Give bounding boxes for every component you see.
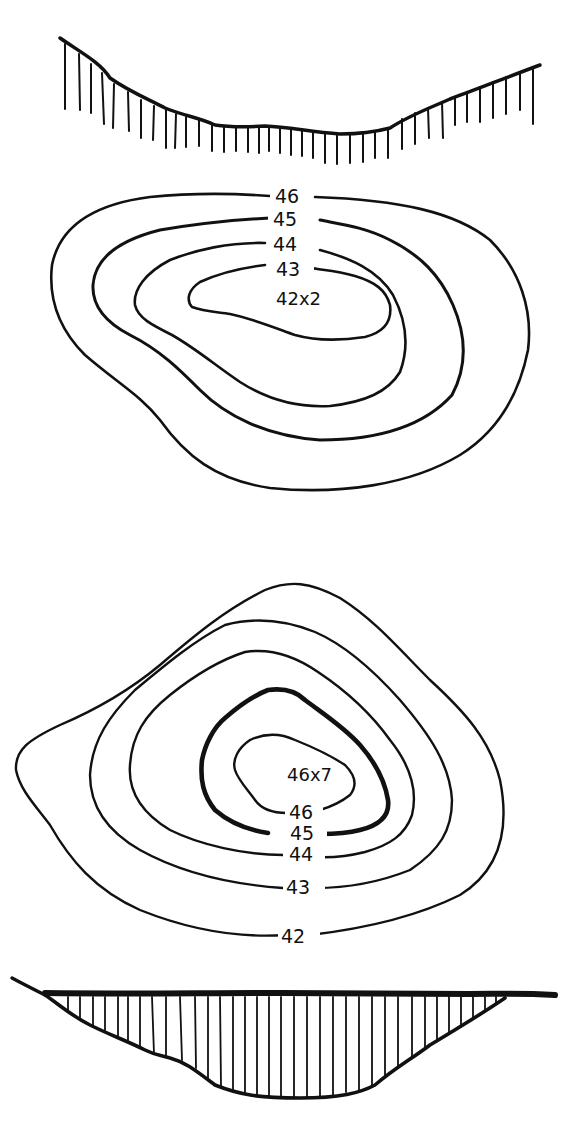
contour-label-44: 44 <box>289 843 313 865</box>
contour-label-45: 45 <box>290 822 314 844</box>
contour-label-46: 46 <box>275 185 299 207</box>
contour-label-44: 44 <box>273 233 297 255</box>
hill-profile-outline <box>45 995 505 1098</box>
depression-contour-map: 46 45 44 43 42x2 <box>51 185 529 490</box>
hill-profile <box>12 978 555 1098</box>
contour-label-42: 42 <box>281 925 305 947</box>
contour-line-42 <box>16 584 504 936</box>
contour-diagram: 46 45 44 43 42x2 46 45 44 43 42 46x7 <box>0 0 581 1126</box>
depression-profile <box>60 38 540 164</box>
hill-profile-lower-edge <box>45 995 505 1098</box>
contour-line-43 <box>90 621 452 888</box>
contour-label-46: 46 <box>289 801 313 823</box>
left-approach-slope <box>12 978 45 995</box>
hill-hatching <box>68 997 496 1098</box>
spot-height-label: 46x7 <box>287 764 332 785</box>
depression-hatching <box>65 44 533 164</box>
hill-contour-map: 46 45 44 43 42 46x7 <box>16 584 504 947</box>
contour-label-43: 43 <box>276 258 300 280</box>
hill-top-surface <box>45 993 555 995</box>
contour-label-43: 43 <box>286 876 310 898</box>
contour-label-45: 45 <box>273 208 297 230</box>
spot-height-label: 42x2 <box>276 288 321 309</box>
